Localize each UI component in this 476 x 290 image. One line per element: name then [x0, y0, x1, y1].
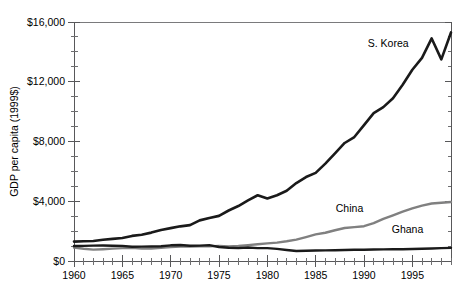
- chart-container: $0$4,000$8,000$12,000$16,000 19601965197…: [0, 0, 476, 290]
- x-tick-label: 1995: [401, 269, 425, 281]
- line-chart: $0$4,000$8,000$12,000$16,000 19601965197…: [0, 0, 476, 290]
- y-axis-title: GDP per capita (1999$): [8, 86, 20, 197]
- series-label-ghana: Ghana: [392, 223, 424, 235]
- x-tick-label: 1975: [207, 269, 231, 281]
- series-label-china: China: [336, 202, 364, 214]
- x-tick-label: 1990: [352, 269, 376, 281]
- x-tick-label: 1960: [62, 269, 86, 281]
- x-tick-label: 1985: [304, 269, 328, 281]
- x-tick-label: 1965: [111, 269, 135, 281]
- y-tick-label: $8,000: [33, 135, 65, 147]
- y-tick-label: $12,000: [27, 75, 65, 87]
- y-tick-label: $4,000: [33, 195, 65, 207]
- y-axis-tick-labels: $0$4,000$8,000$12,000$16,000: [27, 16, 65, 267]
- series-annotations: S. KoreaChinaGhana: [336, 37, 424, 235]
- y-axis-title-text: GDP per capita (1999$): [8, 86, 20, 197]
- x-axis-tick-labels: 19601965197019751980198519901995: [62, 269, 424, 281]
- y-tick-label: $0: [53, 255, 65, 267]
- y-tick-label: $16,000: [27, 16, 65, 28]
- series-line-s-korea: [74, 32, 451, 241]
- x-tick-label: 1970: [159, 269, 183, 281]
- data-series-lines: [74, 32, 451, 251]
- x-tick-label: 1980: [256, 269, 280, 281]
- series-label-s-korea: S. Korea: [368, 37, 409, 49]
